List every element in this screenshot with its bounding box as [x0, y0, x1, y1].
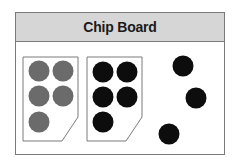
black-chip	[117, 62, 138, 83]
loose-black-chips	[159, 56, 207, 145]
black-chip	[186, 88, 207, 109]
gray-chip	[29, 112, 50, 133]
gray-chip	[29, 86, 50, 107]
black-chip	[93, 87, 114, 108]
gray-chip	[53, 86, 74, 107]
black-chip	[159, 124, 180, 145]
gray-chip	[53, 61, 74, 82]
black-chip	[117, 87, 138, 108]
gray-chip-tray	[23, 57, 78, 141]
black-chip	[93, 112, 114, 133]
black-chip	[93, 62, 114, 83]
black-chip-tray	[87, 57, 142, 141]
black-chip	[173, 56, 194, 77]
gray-chip	[29, 61, 50, 82]
chip-diagram	[0, 0, 234, 160]
